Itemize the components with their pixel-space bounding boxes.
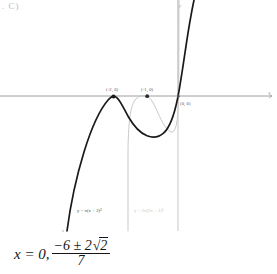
gray-transformed-cubic-curve — [128, 0, 179, 231]
point-label-minus-one: (-1, 0) — [141, 87, 153, 92]
radicand: 2 — [99, 237, 108, 253]
stray-speck — [62, 230, 64, 232]
answer-equation: x = 0, −6 ± 2√2 7 — [14, 240, 110, 270]
point-marker-minus-two — [111, 94, 115, 98]
x-axis-label: x — [268, 90, 270, 95]
point-label-minus-two: (-2, 0) — [106, 87, 118, 92]
square-root-expression: √2 — [92, 239, 109, 253]
answer-numerator: −6 ± 2√2 — [52, 239, 111, 253]
point-label-origin: (0, 0) — [180, 101, 191, 106]
graph-plot-area: x y (-2, 0) (-1, 0) (0, 0) y = x(x + 2)²… — [0, 0, 277, 232]
answer-denominator: 7 — [77, 254, 84, 268]
point-marker-minus-one — [145, 94, 149, 98]
curve-label-gray-cubic: y = 2x(2x + 2)² — [134, 208, 164, 213]
point-marker-origin — [177, 95, 180, 98]
curve-label-black-cubic: y = x(x + 2)² — [77, 208, 102, 213]
graph-page: . C) x y (-2, 0) (-1, 0) (0, 0) y = x(x … — [0, 0, 277, 274]
y-axis-label: y — [179, 3, 181, 8]
answer-left-side: x = 0, — [14, 246, 50, 263]
answer-fraction: −6 ± 2√2 7 — [52, 239, 111, 269]
numerator-prefix: −6 ± 2 — [54, 238, 92, 253]
graph-svg — [0, 0, 277, 232]
